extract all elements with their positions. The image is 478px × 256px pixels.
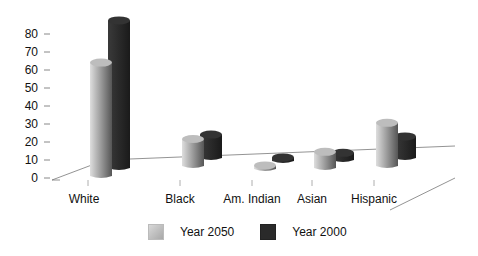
- y-tick-label: 60: [14, 63, 38, 77]
- legend-item-2050: Year 2050: [148, 224, 234, 240]
- x-category-label: Black: [140, 192, 220, 206]
- y-tick-label: 10: [14, 153, 38, 167]
- legend-item-2000: Year 2000: [260, 224, 346, 240]
- legend: Year 2050 Year 2000: [148, 224, 373, 240]
- bar-2050-0: [90, 59, 112, 178]
- legend-label-2000: Year 2000: [292, 225, 346, 239]
- bar-chart-plot: [0, 0, 478, 256]
- y-tick-label: 50: [14, 81, 38, 95]
- y-tick-label: 30: [14, 117, 38, 131]
- y-tick-label: 80: [14, 27, 38, 41]
- y-tick-label: 40: [14, 99, 38, 113]
- x-category-label: White: [44, 192, 124, 206]
- bar-2050-3: [314, 148, 336, 170]
- legend-swatch-2000: [260, 224, 276, 240]
- bar-2000-2: [272, 153, 294, 163]
- legend-swatch-2050: [148, 224, 164, 240]
- chart-area: [0, 0, 478, 256]
- y-tick-label: 20: [14, 135, 38, 149]
- legend-label-2050: Year 2050: [180, 225, 234, 239]
- y-tick-label: 70: [14, 45, 38, 59]
- bar-2050-1: [182, 135, 204, 168]
- x-category-label: Hispanic: [334, 192, 414, 206]
- bar-2050-4: [376, 119, 398, 168]
- y-tick-label: 0: [14, 171, 38, 185]
- bar-2050-2: [254, 161, 276, 171]
